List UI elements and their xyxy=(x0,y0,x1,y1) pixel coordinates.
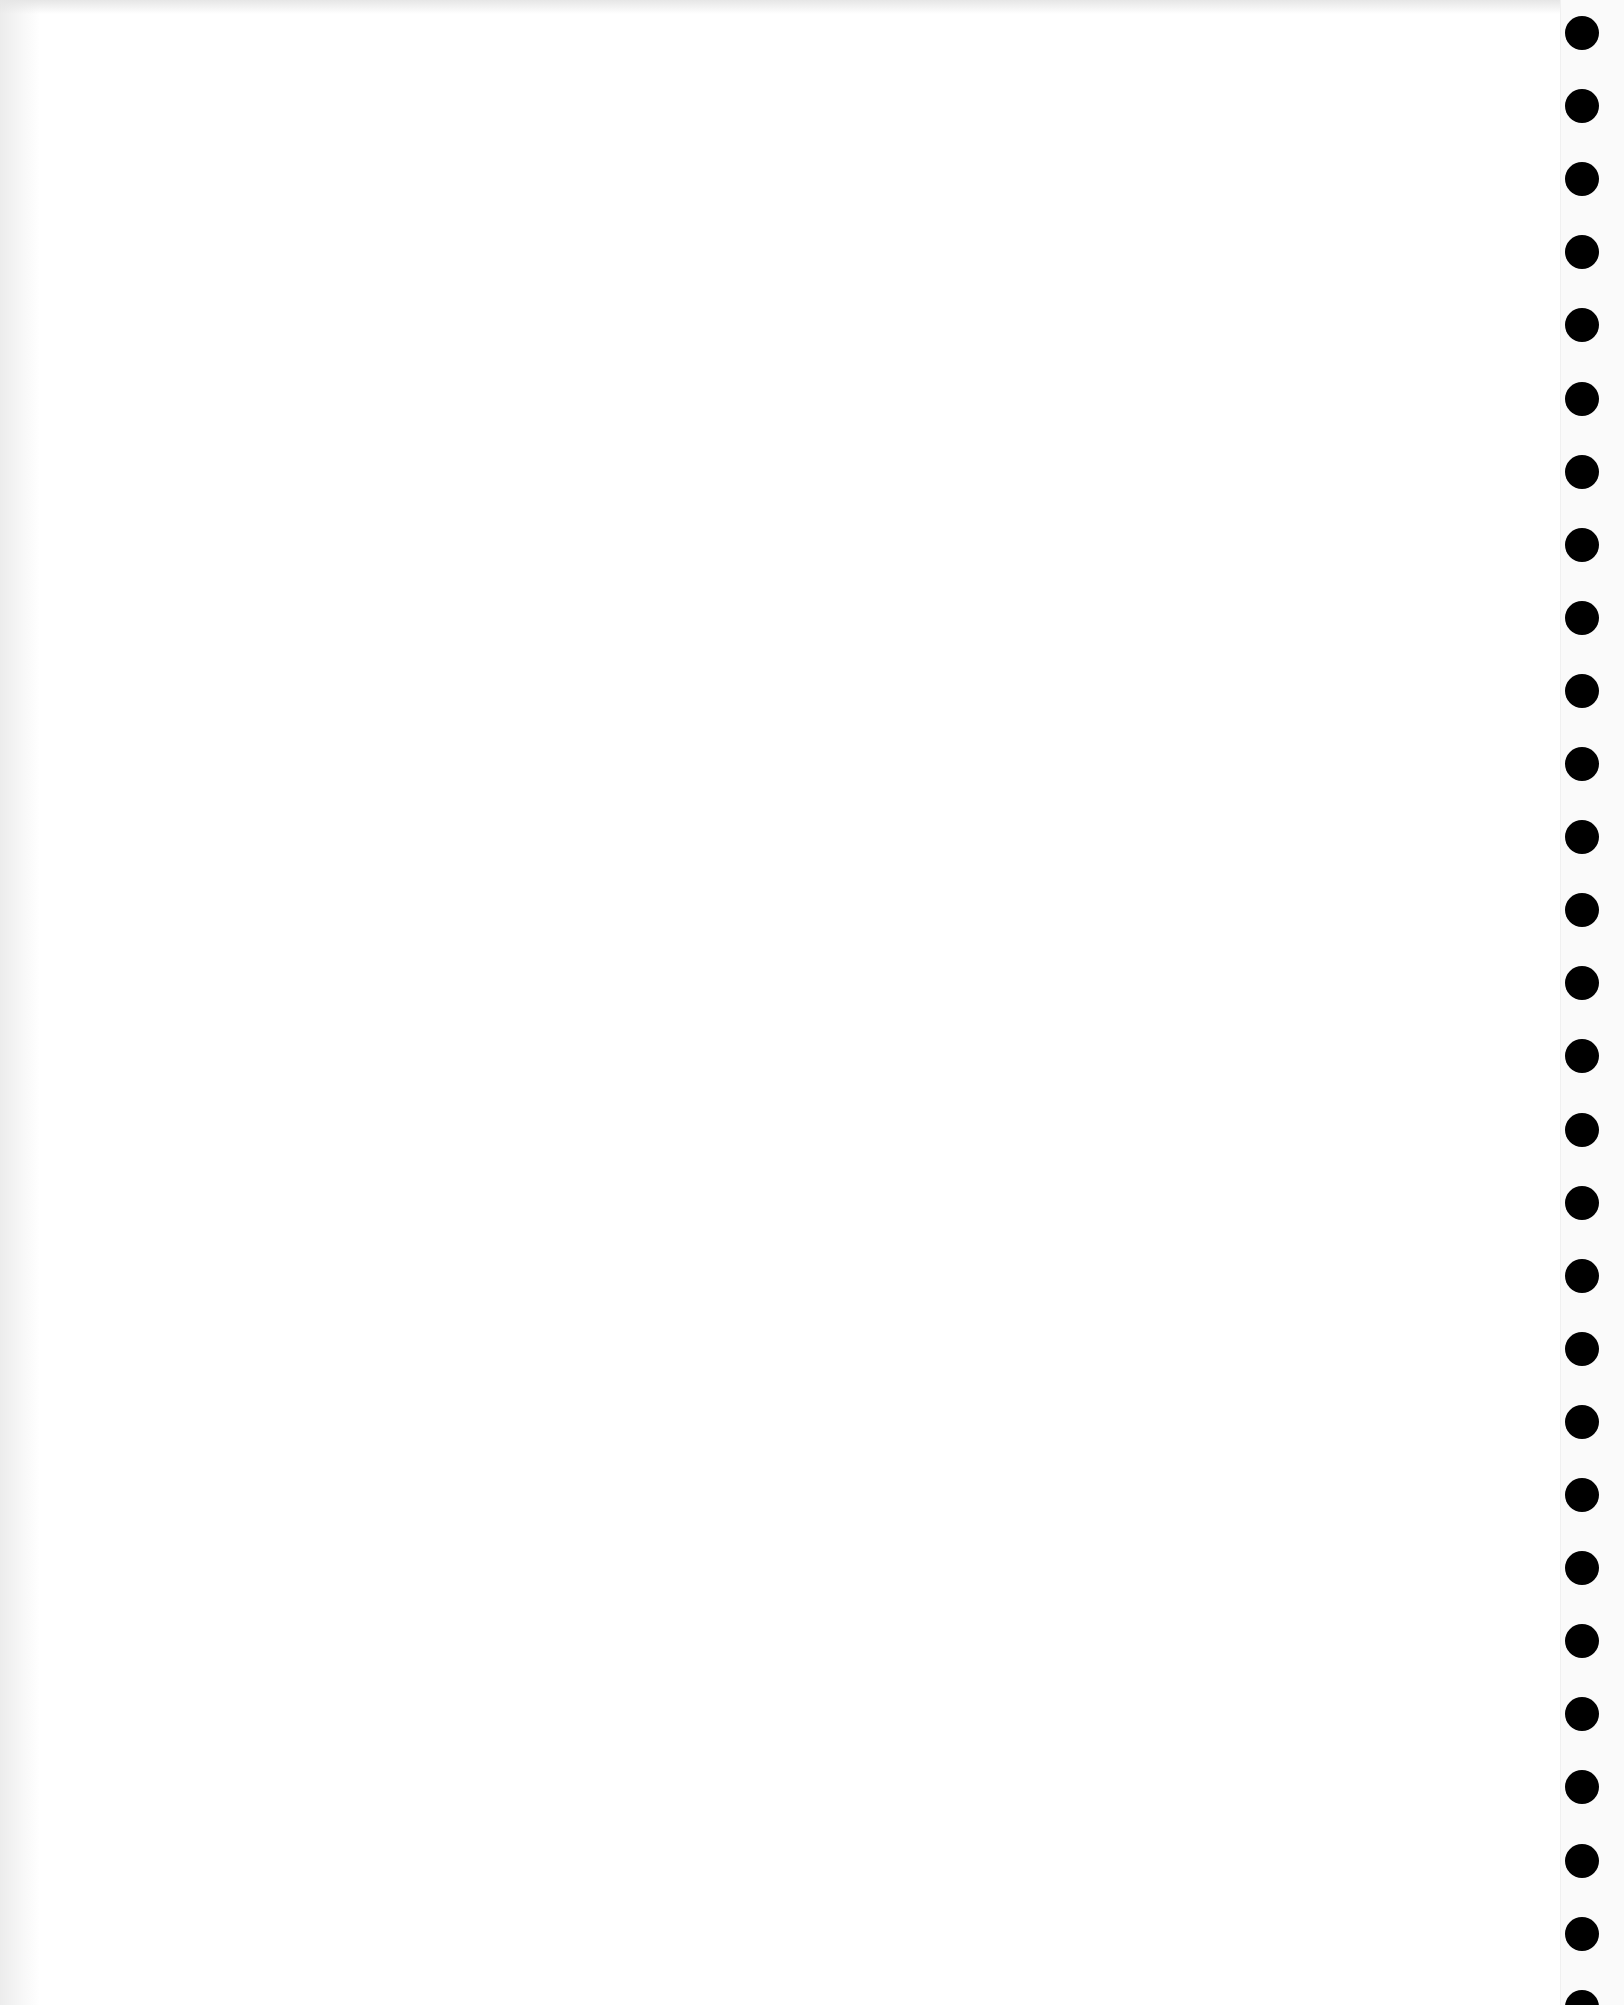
punch-hole xyxy=(1565,1259,1599,1293)
page-left-edge-shadow xyxy=(0,0,40,2005)
punch-hole xyxy=(1565,382,1599,416)
punch-hole xyxy=(1565,1697,1599,1731)
punch-hole xyxy=(1565,1770,1599,1804)
punch-hole-column xyxy=(1565,0,1599,2005)
punch-hole xyxy=(1565,308,1599,342)
punch-hole xyxy=(1565,528,1599,562)
punch-hole xyxy=(1565,820,1599,854)
punch-hole xyxy=(1565,601,1599,635)
punch-hole xyxy=(1565,455,1599,489)
punch-hole xyxy=(1565,1990,1599,2005)
punch-hole xyxy=(1565,1186,1599,1220)
punch-hole xyxy=(1565,966,1599,1000)
blank-page xyxy=(0,0,1624,2005)
punch-hole xyxy=(1565,1113,1599,1147)
punch-hole xyxy=(1565,1039,1599,1073)
punch-hole xyxy=(1565,674,1599,708)
punch-hole xyxy=(1565,16,1599,50)
punch-hole xyxy=(1565,747,1599,781)
punch-hole xyxy=(1565,1332,1599,1366)
punch-hole xyxy=(1565,1844,1599,1878)
punch-hole xyxy=(1565,89,1599,123)
punch-hole xyxy=(1565,1624,1599,1658)
punch-hole xyxy=(1565,1917,1599,1951)
punch-hole xyxy=(1565,162,1599,196)
punch-hole xyxy=(1565,235,1599,269)
page-top-edge-shadow xyxy=(0,0,1624,14)
punch-hole xyxy=(1565,1478,1599,1512)
punch-hole xyxy=(1565,1405,1599,1439)
punch-hole xyxy=(1565,1551,1599,1585)
punch-hole xyxy=(1565,893,1599,927)
